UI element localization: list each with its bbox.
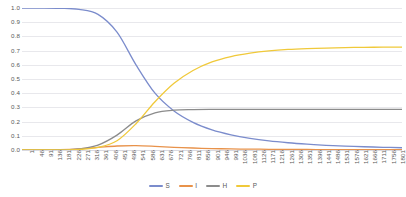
x-axis-tick-label: 676 (168, 150, 174, 160)
legend-item-h[interactable]: H (206, 183, 227, 189)
x-axis-tick-label: 361 (103, 150, 109, 160)
x-axis-tick-label: 46 (39, 150, 45, 157)
x-axis-tick-label: 721 (178, 150, 184, 160)
y-axis-tick-label: 0.9 (11, 19, 20, 25)
chart-container: 1.00.90.80.70.60.50.40.30.20.10.0 146911… (0, 0, 406, 197)
legend-swatch-i (179, 185, 193, 187)
x-axis-tick-label: 1171 (270, 150, 276, 164)
x-axis-tick-label: 1306 (298, 150, 304, 164)
x-axis-tick-label: 1441 (326, 150, 332, 164)
series-lines (22, 8, 402, 150)
x-axis-tick-label: 766 (187, 150, 193, 160)
x-axis-tick-label: 181 (66, 150, 72, 160)
legend-swatch-p (236, 185, 250, 187)
x-axis-tick-label: 1216 (279, 150, 285, 164)
x-axis-tick-label: 631 (159, 150, 165, 160)
x-axis-tick-label: 136 (57, 150, 63, 160)
x-axis-tick-label: 586 (150, 150, 156, 160)
legend-label: I (195, 183, 197, 189)
x-axis-tick-label: 1576 (354, 150, 360, 164)
x-axis-tick-label: 271 (85, 150, 91, 160)
x-axis-tick-label: 1621 (363, 150, 369, 164)
x-axis-tick-label: 901 (215, 150, 221, 160)
legend-label: S (166, 183, 170, 189)
y-axis-tick-label: 0.2 (11, 118, 20, 124)
x-axis-tick-label: 946 (224, 150, 230, 160)
x-axis-tick-label: 1801 (400, 150, 406, 164)
x-axis-tick-label: 1756 (391, 150, 397, 164)
x-axis: 1469113618122627131636140645149654158663… (22, 150, 402, 178)
x-axis-tick-label: 1396 (317, 150, 323, 164)
x-axis-tick-label: 1486 (335, 150, 341, 164)
y-axis-tick-label: 0.8 (11, 33, 20, 39)
x-axis-tick-label: 496 (131, 150, 137, 160)
y-axis: 1.00.90.80.70.60.50.40.30.20.10.0 (0, 0, 22, 150)
legend-swatch-h (206, 185, 220, 187)
x-axis-tick-label: 1531 (344, 150, 350, 164)
x-axis-tick-label: 1351 (307, 150, 313, 164)
x-axis-tick-label: 1 (29, 150, 35, 154)
x-axis-tick-label: 451 (122, 150, 128, 160)
x-axis-tick-label: 406 (113, 150, 119, 160)
x-axis-tick-label: 1081 (252, 150, 258, 164)
legend-label: H (223, 183, 228, 189)
legend-item-p[interactable]: P (236, 183, 257, 189)
legend-label: P (253, 183, 257, 189)
x-axis-tick-label: 91 (48, 150, 54, 157)
x-axis-tick-label: 1261 (289, 150, 295, 164)
x-axis-tick-label: 1711 (381, 150, 387, 164)
y-axis-tick-label: 0.4 (11, 90, 20, 96)
x-axis-tick-label: 991 (233, 150, 239, 160)
y-axis-tick-label: 0.3 (11, 104, 20, 110)
y-axis-tick-label: 0.5 (11, 76, 20, 82)
y-axis-tick-label: 0.0 (11, 147, 20, 153)
x-axis-tick-label: 316 (94, 150, 100, 160)
legend-swatch-s (149, 185, 163, 187)
series-line-p (22, 47, 402, 150)
y-axis-tick-label: 1.0 (11, 5, 20, 11)
legend-item-i[interactable]: I (179, 183, 197, 189)
plot-area (22, 8, 402, 150)
y-axis-tick-label: 0.6 (11, 62, 20, 68)
x-axis-tick-label: 226 (76, 150, 82, 160)
x-axis-tick-label: 1036 (242, 150, 248, 164)
x-axis-tick-label: 856 (205, 150, 211, 160)
y-axis-tick-label: 0.1 (11, 133, 20, 139)
x-axis-tick-label: 811 (196, 150, 202, 160)
chart-legend: SIHP (0, 179, 406, 193)
series-line-s (22, 8, 402, 148)
y-axis-tick-label: 0.7 (11, 47, 20, 53)
legend-item-s[interactable]: S (149, 183, 170, 189)
x-axis-tick-label: 1666 (372, 150, 378, 164)
x-axis-tick-label: 541 (140, 150, 146, 160)
x-axis-tick-label: 1126 (261, 150, 267, 164)
